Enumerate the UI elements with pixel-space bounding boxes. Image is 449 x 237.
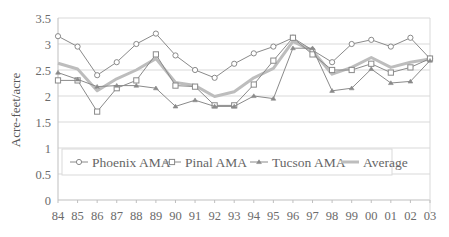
square-marker-icon: [408, 65, 413, 70]
x-tick-label: 96: [287, 209, 300, 223]
x-tick-label: 99: [345, 209, 358, 223]
legend-label: Average: [363, 155, 408, 170]
square-marker-icon: [349, 67, 354, 72]
x-tick-label: 89: [150, 209, 163, 223]
square-marker-icon: [330, 67, 335, 72]
x-tick-label: 87: [110, 209, 123, 223]
y-axis-label: Acre-feet/acre: [8, 73, 23, 148]
circle-marker-icon: [330, 60, 335, 65]
square-marker-icon: [290, 35, 295, 40]
gridlines: [58, 18, 430, 212]
x-tick-label: 86: [91, 209, 104, 223]
circle-marker-icon: [76, 159, 81, 164]
circle-marker-icon: [408, 35, 413, 40]
square-marker-icon: [95, 109, 100, 114]
y-tick-label: 3.5: [35, 12, 51, 26]
x-tick-label: 01: [385, 209, 398, 223]
circle-marker-icon: [173, 53, 178, 58]
series-pinal-ama: [55, 35, 432, 114]
circle-marker-icon: [212, 75, 217, 80]
series-lines: [55, 31, 432, 114]
series-tucson-ama: [56, 46, 433, 108]
square-marker-icon: [271, 58, 276, 63]
x-tick-label: 91: [189, 209, 202, 223]
y-tick-label: 3: [45, 38, 51, 52]
square-marker-icon: [369, 61, 374, 66]
y-tick-label: 2.5: [35, 64, 51, 78]
square-marker-icon: [173, 83, 178, 88]
square-marker-icon: [134, 78, 139, 83]
circle-marker-icon: [271, 44, 276, 49]
square-marker-icon: [169, 159, 174, 164]
series-line: [58, 38, 430, 112]
x-tick-label: 95: [267, 209, 280, 223]
circle-marker-icon: [75, 44, 80, 49]
square-marker-icon: [388, 70, 393, 75]
y-tick-label: 0.5: [35, 168, 51, 182]
circle-marker-icon: [388, 44, 393, 49]
circle-marker-icon: [95, 73, 100, 78]
legend-label: Phoenix AMA: [92, 155, 171, 170]
square-marker-icon: [55, 78, 60, 83]
triangle-marker-icon: [56, 70, 61, 74]
x-tick-label: 90: [169, 209, 182, 223]
circle-marker-icon: [55, 34, 60, 39]
triangle-marker-icon: [193, 98, 198, 102]
x-tick-label: 88: [130, 209, 143, 223]
y-tick-label: 0: [45, 194, 51, 208]
circle-marker-icon: [153, 31, 158, 36]
legend-label: Tucson AMA: [272, 155, 346, 170]
circle-marker-icon: [251, 51, 256, 56]
legend: Phoenix AMAPinal AMATucson AMAAverage: [62, 149, 408, 175]
x-tick-label: 00: [365, 209, 378, 223]
y-tick-label: 1.5: [35, 116, 51, 130]
x-tick-label: 03: [424, 209, 437, 223]
circle-marker-icon: [192, 67, 197, 72]
x-tick-label: 85: [71, 209, 84, 223]
x-tick-label: 84: [52, 209, 65, 223]
series-line: [58, 48, 430, 106]
line-chart: 00.511.522.533.5 Acre-feet/acre 84858687…: [0, 0, 449, 237]
x-tick-label: 98: [326, 209, 339, 223]
y-tick-label: 1: [45, 142, 51, 156]
x-tick-label: 97: [306, 209, 319, 223]
y-tick-label: 2: [45, 90, 51, 104]
triangle-marker-icon: [369, 67, 374, 71]
x-axis-ticks: 8485868788899091929394959697989900010203: [52, 200, 437, 223]
x-tick-label: 94: [248, 209, 261, 223]
x-tick-label: 02: [404, 209, 417, 223]
y-axis-ticks: 00.511.522.533.5: [35, 12, 51, 208]
square-marker-icon: [153, 52, 158, 57]
square-marker-icon: [251, 82, 256, 87]
circle-marker-icon: [369, 37, 374, 42]
circle-marker-icon: [232, 61, 237, 66]
circle-marker-icon: [114, 60, 119, 65]
circle-marker-icon: [134, 41, 139, 46]
legend-label: Pinal AMA: [185, 155, 247, 170]
square-marker-icon: [192, 84, 197, 89]
x-tick-label: 93: [228, 209, 241, 223]
x-tick-label: 92: [208, 209, 221, 223]
circle-marker-icon: [349, 41, 354, 46]
